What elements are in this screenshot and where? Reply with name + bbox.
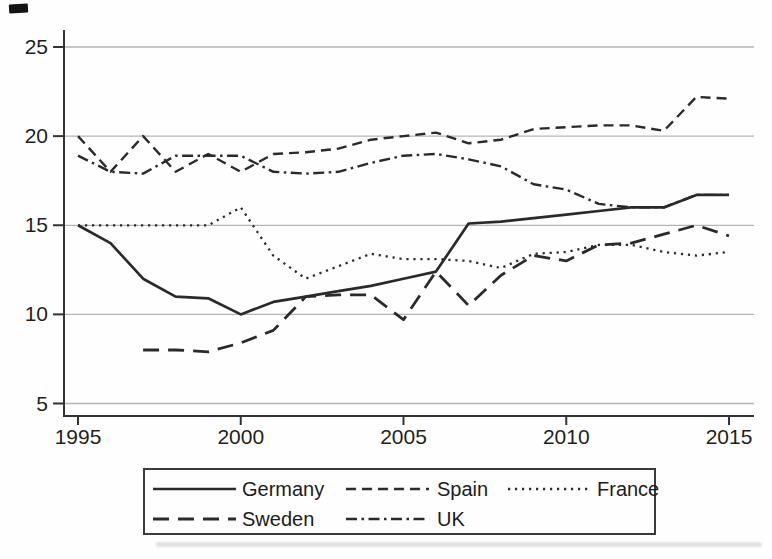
x-tick-label: 2015	[706, 425, 753, 448]
legend-label-france: France	[597, 477, 659, 501]
series-line-sweden	[143, 225, 729, 351]
y-tick-label: 5	[36, 392, 48, 415]
legend-line-uk	[345, 514, 430, 524]
legend-label-uk: UK	[437, 507, 465, 531]
line-chart-canvas: 51015202519952000200520102015	[0, 0, 772, 468]
legend-label-sweden: Sweden	[242, 507, 314, 531]
x-tick-label: 2000	[217, 425, 264, 448]
series-line-germany	[78, 195, 729, 315]
legend-line-germany	[152, 484, 237, 494]
x-tick-label: 1995	[55, 425, 102, 448]
legend-line-sweden	[152, 514, 237, 524]
legend-label-spain: Spain	[437, 477, 488, 501]
x-tick-label: 2005	[380, 425, 427, 448]
y-tick-label: 20	[25, 124, 48, 147]
series-line-uk	[78, 154, 729, 207]
scan-mark	[9, 4, 28, 14]
chart-figure: 51015202519952000200520102015 GermanySpa…	[0, 0, 772, 559]
y-tick-label: 10	[25, 302, 48, 325]
legend-line-france	[507, 484, 592, 494]
legend-line-spain	[345, 484, 430, 494]
series-line-spain	[78, 97, 729, 172]
y-tick-label: 25	[25, 35, 48, 58]
scan-streak	[156, 542, 762, 547]
legend-label-germany: Germany	[242, 477, 324, 501]
x-tick-label: 2010	[543, 425, 590, 448]
chart-legend: GermanySpainFranceSwedenUK	[143, 468, 656, 535]
y-tick-label: 15	[25, 213, 48, 236]
